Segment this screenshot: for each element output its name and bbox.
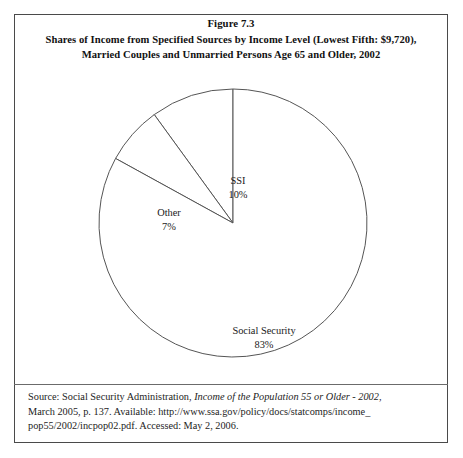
- source-note: Source: Social Security Administration, …: [28, 390, 436, 434]
- figure-number: Figure 7.3: [14, 16, 448, 32]
- source-publication-title: Income of the Population 55 or Older - 2…: [194, 391, 381, 402]
- source-line-1: Source: Social Security Administration, …: [28, 390, 436, 405]
- pie-label-ssi-name: SSI: [210, 174, 266, 188]
- pie-label-social-security: Social Security 83%: [209, 324, 319, 351]
- source-line-3: pop55/2002/incpop02.pdf. Accessed: May 2…: [28, 419, 436, 434]
- pie-label-social-security-value: 83%: [209, 338, 319, 352]
- source-line-1-text: Source: Social Security Administration,: [28, 391, 194, 402]
- pie-label-social-security-name: Social Security: [209, 324, 319, 338]
- pie-slice-group: [99, 89, 367, 357]
- source-divider: [14, 384, 448, 385]
- figure-title-line-2: Married Couples and Unmarried Persons Ag…: [14, 47, 448, 63]
- pie-label-other: Other 7%: [141, 206, 197, 233]
- source-line-2: March 2005, p. 137. Available: http://ww…: [28, 405, 436, 420]
- figure-title: Figure 7.3 Shares of Income from Specifi…: [14, 16, 448, 63]
- pie-label-ssi-value: 10%: [210, 188, 266, 202]
- pie-chart: SSI 10% Other 7% Social Security 83%: [14, 74, 448, 374]
- pie-label-ssi: SSI 10%: [210, 174, 266, 201]
- figure-page: Figure 7.3 Shares of Income from Specifi…: [0, 0, 463, 458]
- pie-label-other-name: Other: [141, 206, 197, 220]
- figure-title-line-1: Shares of Income from Specified Sources …: [14, 32, 448, 48]
- pie-label-other-value: 7%: [141, 220, 197, 234]
